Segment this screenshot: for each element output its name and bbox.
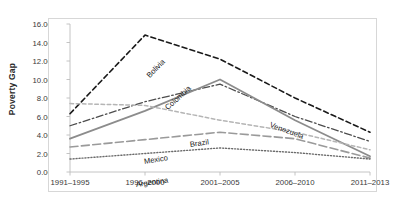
y-axis-tick: 6.00 (8, 112, 52, 121)
x-axis-tick: 1991–1995 (35, 178, 105, 187)
y-axis-tick: 14.00 (8, 38, 52, 47)
y-axis-tick: 12.00 (8, 57, 52, 66)
y-axis-tick-labels: 0.002.004.006.008.0010.0012.0014.0016.00 (8, 0, 52, 205)
series-line-argentina (70, 148, 370, 159)
y-axis-tick: 2.00 (8, 149, 52, 158)
y-axis-tick: 8.00 (8, 94, 52, 103)
y-axis-tick: 4.00 (8, 131, 52, 140)
series-line-mexico (70, 132, 370, 158)
y-axis-tick: 10.00 (8, 75, 52, 84)
x-axis-tick: 2001–2005 (185, 178, 255, 187)
x-axis-tick: 2011–2013 (335, 178, 400, 187)
plot-area (70, 24, 370, 172)
series-line-venezuela (70, 80, 370, 157)
x-axis-tick: 2006–2010 (260, 178, 330, 187)
y-axis-tick: 16.00 (8, 20, 52, 29)
series-lines (70, 24, 370, 172)
y-axis-tick: 0.00 (8, 168, 52, 177)
